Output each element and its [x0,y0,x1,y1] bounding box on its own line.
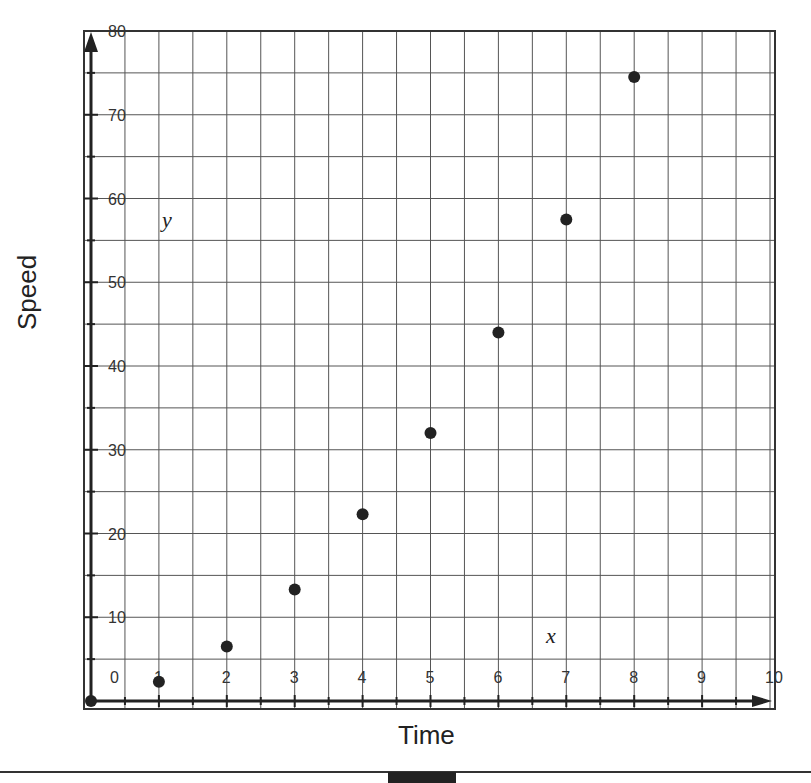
x-tick-label: 4 [358,669,367,686]
x-tick-label: 8 [629,669,638,686]
x-tick-label: 10 [765,669,783,686]
x-tick-label: 7 [561,669,570,686]
x-tick-label: 9 [697,669,706,686]
data-point [289,584,301,596]
x-tick-label: 3 [290,669,299,686]
data-point [357,508,369,520]
y-tick-label: 70 [108,107,126,124]
y-tick-label: 50 [108,274,126,291]
y-tick-label: 20 [108,526,126,543]
data-point [628,71,640,83]
data-point [221,641,233,653]
y-tick-label: 30 [108,442,126,459]
x-tick-label: 2 [222,669,231,686]
y-axis-arrow-icon [84,32,98,52]
y-tick-label: 40 [108,358,126,375]
data-point [153,676,165,688]
x-tick-label: 6 [493,669,502,686]
y-axis-title: Speed [12,250,52,330]
y-tick-label: 60 [108,191,126,208]
data-point [492,327,504,339]
page-tab-marker [388,772,456,783]
data-point [85,695,97,707]
origin-label: 0 [110,669,119,686]
x-axis-arrow-icon [752,695,772,707]
data-point [560,213,572,225]
x-tick-label: 5 [426,669,435,686]
x-variable-label: x [545,623,556,648]
x-axis-title: Time [398,720,455,751]
y-tick-label: 80 [108,23,126,40]
data-point [425,427,437,439]
scatter-chart: 1234567891001020304050607080yx [0,0,811,783]
y-tick-label: 10 [108,609,126,626]
y-variable-label: y [160,207,172,232]
plot-frame [84,31,775,709]
